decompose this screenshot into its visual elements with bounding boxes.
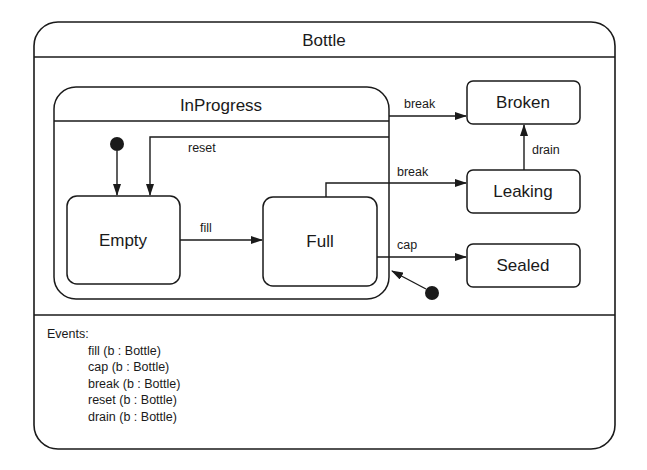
bottle-title: Bottle [302,31,345,50]
outer-initial-state-icon [425,286,439,300]
cap-label: cap [397,238,417,252]
initial-state-icon [110,137,124,151]
event-item: cap (b : Bottle) [47,359,180,376]
inprogress-state [54,87,389,299]
inprogress-label: InProgress [180,96,262,115]
break-full-transition [326,183,466,197]
drain-label: drain [532,143,560,157]
sealed-label: Sealed [497,256,550,275]
reset-label: reset [188,141,216,155]
reset-transition [150,137,389,195]
empty-label: Empty [99,231,148,250]
event-item: reset (b : Bottle) [47,392,180,409]
full-label: Full [306,232,333,251]
event-item: fill (b : Bottle) [47,343,180,360]
leaking-label: Leaking [493,182,553,201]
break-inprogress-label: break [404,97,436,111]
break-full-label: break [397,165,429,179]
events-compartment: Events: fill (b : Bottle) cap (b : Bottl… [47,326,180,425]
events-heading: Events: [47,326,180,343]
fill-label: fill [200,221,212,235]
broken-label: Broken [496,93,550,112]
outer-initial-transition [392,271,426,289]
event-item: break (b : Bottle) [47,376,180,393]
event-item: drain (b : Bottle) [47,409,180,426]
